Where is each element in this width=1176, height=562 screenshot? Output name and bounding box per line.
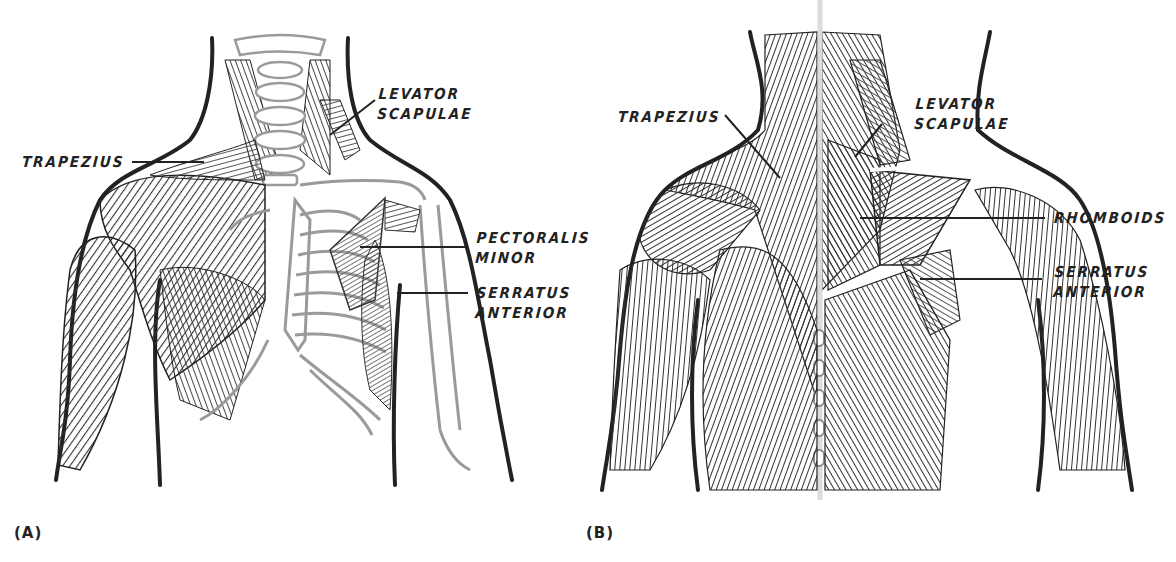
label-line: RHOMBOIDS [1053,208,1167,228]
label-line: LEVATOR [915,94,1012,114]
panel-tag-a: (A) [14,524,42,542]
panel-a-anterior-view: TRAPEZIUS LEVATOR SCAPULAE PECTORALIS MI… [0,0,600,562]
label-serratus-anterior-a: SERRATUS ANTERIOR [475,283,572,323]
label-line: TRAPEZIUS [617,107,721,127]
label-line: ANTERIOR [475,303,571,323]
pectoralis-major-and-deltoid [58,175,265,470]
anterior-torso-illustration [0,0,600,562]
label-pectoralis-minor: PECTORALIS MINOR [475,228,592,268]
label-line: SERRATUS [476,283,572,303]
panel-tag-b: (B) [586,524,614,542]
arm-right [975,187,1125,470]
label-rhomboids: RHOMBOIDS [1053,208,1167,228]
label-levator-scapulae-a: LEVATOR SCAPULAE [377,84,475,124]
label-trapezius-a: TRAPEZIUS [21,152,125,172]
rhomboids [828,140,880,290]
label-levator-scapulae-b: LEVATOR SCAPULAE [914,94,1012,134]
trapezius-anterior [150,140,265,180]
label-serratus-anterior-b: SERRATUS ANTERIOR [1053,262,1150,302]
label-line: SCAPULAE [914,114,1011,134]
subclavius [385,200,420,232]
serratus-anterior [362,240,392,410]
label-line: TRAPEZIUS [21,152,125,172]
label-line: ANTERIOR [1053,282,1149,302]
label-line: SERRATUS [1054,262,1150,282]
label-line: LEVATOR [378,84,475,104]
label-line: PECTORALIS [476,228,591,248]
label-line: SCAPULAE [377,104,474,124]
panel-b-posterior-view: TRAPEZIUS LEVATOR SCAPULAE RHOMBOIDS SER… [580,0,1176,562]
label-line: MINOR [475,248,590,268]
label-trapezius-b: TRAPEZIUS [617,107,721,127]
